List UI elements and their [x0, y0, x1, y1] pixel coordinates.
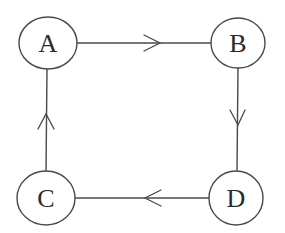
node-d-label: D [227, 184, 246, 213]
edge-d-to-c [75, 190, 209, 206]
cycle-diagram: A B C D [0, 0, 285, 233]
edge-c-to-a [38, 69, 54, 171]
node-c-label: C [37, 184, 54, 213]
node-a-label: A [39, 29, 58, 58]
node-d: D [209, 171, 263, 225]
edge-b-to-d [230, 68, 245, 171]
edge-a-to-b [77, 35, 211, 51]
node-b-label: B [229, 29, 246, 58]
node-c: C [17, 171, 75, 225]
node-a: A [19, 17, 77, 69]
node-b: B [211, 18, 265, 68]
